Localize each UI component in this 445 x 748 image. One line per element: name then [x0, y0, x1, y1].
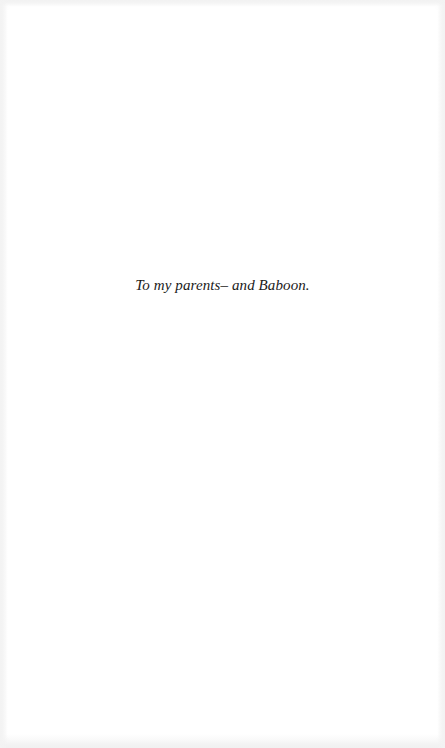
- page-edge-bottom: [0, 734, 445, 748]
- page-edge-top: [0, 0, 445, 6]
- dedication-text: To my parents– and Baboon.: [0, 274, 445, 296]
- page-edge-right: [437, 0, 445, 748]
- page-edge-left: [0, 0, 8, 748]
- book-page: To my parents– and Baboon.: [0, 0, 445, 748]
